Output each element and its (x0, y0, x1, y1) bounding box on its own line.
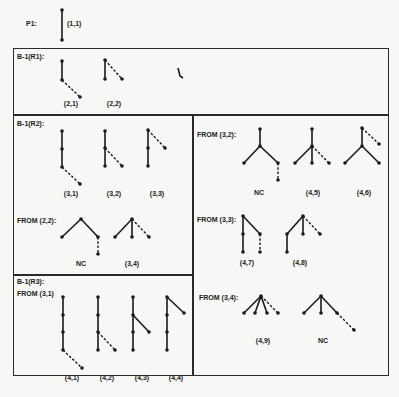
tree-3-2 (103, 129, 124, 168)
tree-diagrams: .e{stroke:#1a1a1a;stroke-width:1.6;fill:… (0, 0, 399, 397)
tree-2-1 (60, 59, 82, 99)
stray-mark (178, 68, 183, 78)
tree-nc-2-2 (60, 217, 100, 256)
tree-4-7 (241, 214, 262, 254)
tree-4-8 (285, 214, 322, 254)
tree-4-2 (96, 295, 117, 352)
tree-4-1 (61, 295, 84, 370)
tree-nc-3-2 (242, 127, 280, 182)
tree-2-2 (103, 58, 124, 81)
tree-4-5 (293, 127, 331, 165)
tree-4-4 (165, 295, 186, 352)
tree-4-6 (343, 126, 381, 165)
tree-4-3 (131, 295, 151, 352)
tree-nc-3-4 (302, 294, 356, 332)
tree-3-4 (113, 217, 151, 239)
tree-1-1 (60, 8, 64, 42)
tree-3-3 (146, 128, 167, 168)
tree-3-1 (60, 129, 82, 186)
tree-4-9 (242, 294, 280, 315)
